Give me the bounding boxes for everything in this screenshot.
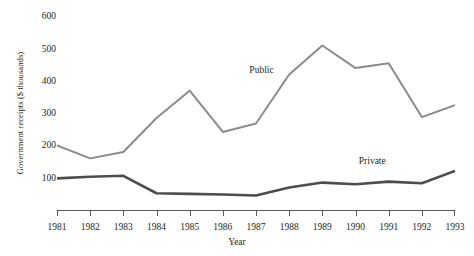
series-canvas: [57, 10, 455, 210]
y-axis-title: Government receipts ($ thousands): [15, 13, 25, 213]
plot-area: [57, 10, 455, 210]
series-label-public: Public: [249, 65, 273, 75]
y-tick-label: 600: [30, 11, 56, 21]
series-line-private: [57, 171, 455, 196]
x-axis-title: Year: [0, 237, 474, 247]
y-tick-label: 400: [30, 76, 56, 86]
y-tick-label: 100: [30, 173, 56, 183]
y-tick-label: 200: [30, 140, 56, 150]
series-line-public: [57, 45, 455, 158]
x-tick-label: 1993: [435, 222, 474, 232]
line-chart: Government receipts ($ thousands) 100200…: [0, 0, 474, 256]
x-axis-tick-labels: 1981198219831984198519861987198819891990…: [0, 212, 474, 232]
y-tick-label: 300: [30, 108, 56, 118]
series-label-private: Private: [359, 156, 386, 166]
y-tick-label: 500: [30, 44, 56, 54]
